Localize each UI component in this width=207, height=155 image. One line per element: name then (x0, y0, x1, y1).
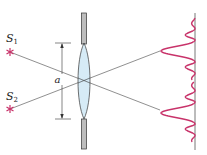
source-s1: S1 (6, 32, 18, 56)
aperture-bottom-plate (82, 119, 87, 149)
source-s2-label: S2 (6, 90, 18, 104)
intensity-pattern-upper (161, 18, 195, 80)
star-icon (7, 105, 14, 113)
aperture-top-plate (82, 13, 87, 44)
source-s2: S2 (6, 90, 18, 113)
intensity-pattern-lower (161, 82, 195, 142)
lens (78, 43, 90, 119)
aperture-label: a (55, 74, 61, 85)
source-s1-label: S1 (6, 32, 18, 46)
star-icon (7, 48, 14, 56)
diffraction-diagram: a S1 S2 (0, 0, 207, 155)
